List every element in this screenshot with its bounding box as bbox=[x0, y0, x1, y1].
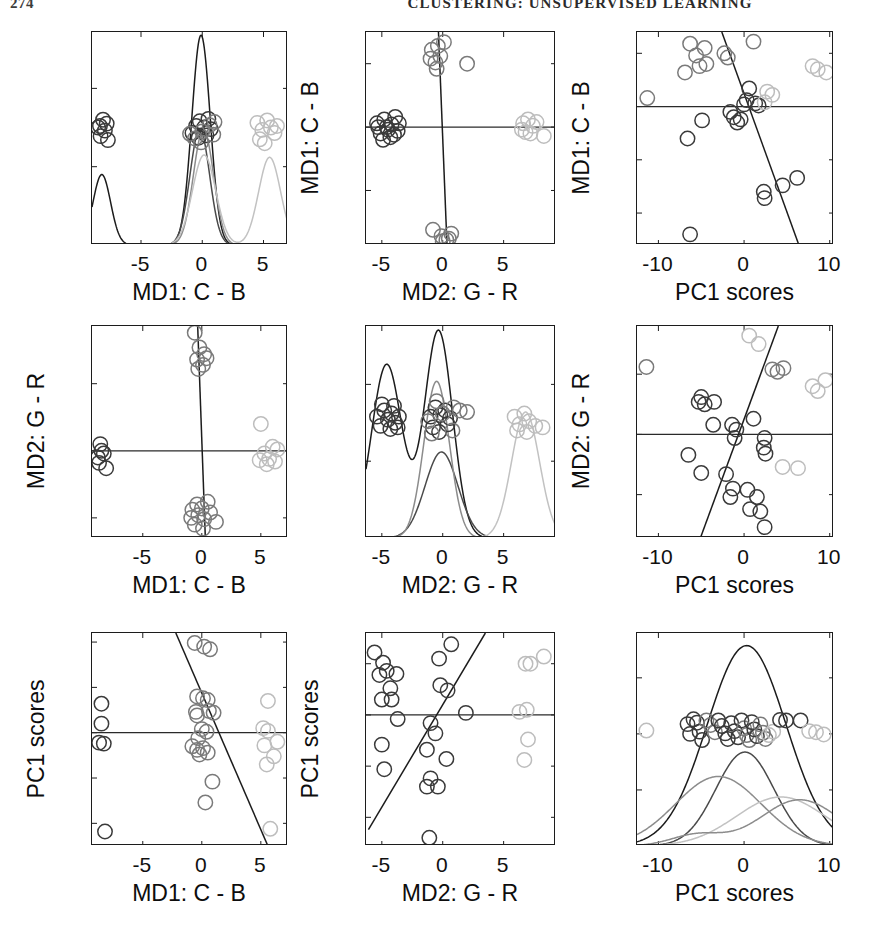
plot-area-3-3[interactable] bbox=[636, 632, 833, 845]
x-tick-label: 0 bbox=[436, 546, 448, 567]
x-tick-label: 0 bbox=[195, 854, 207, 875]
x-tick-label: -10 bbox=[642, 546, 672, 567]
x-tick-label: -5 bbox=[371, 253, 390, 274]
x-tick-label: 10 bbox=[817, 546, 840, 567]
plot-area-1-3[interactable] bbox=[636, 31, 833, 244]
x-tick-label: 5 bbox=[497, 854, 509, 875]
x-tick-label: 5 bbox=[257, 253, 269, 274]
x-tick-label: -5 bbox=[132, 546, 151, 567]
y-axis-title: MD2: G - R bbox=[25, 373, 48, 489]
x-axis-title: MD1: C - B bbox=[132, 281, 246, 304]
x-tick-label: -10 bbox=[642, 253, 672, 274]
x-tick-label: 5 bbox=[254, 546, 266, 567]
x-tick-label: -10 bbox=[642, 854, 672, 875]
x-axis-title: PC1 scores bbox=[675, 574, 794, 597]
x-axis-title: PC1 scores bbox=[675, 281, 794, 304]
x-axis-title: PC1 scores bbox=[675, 882, 794, 905]
plot-area-1-1[interactable] bbox=[91, 31, 287, 244]
y-axis-title: MD2: G - R bbox=[570, 373, 593, 489]
scatterplot-matrix-figure: -50500.10.2MD1: C - B-505-505MD2: G - RM… bbox=[0, 0, 869, 932]
x-tick-label: 0 bbox=[737, 253, 749, 274]
x-axis-title: MD1: C - B bbox=[132, 882, 246, 905]
plot-area-2-2[interactable] bbox=[365, 325, 555, 537]
x-tick-label: 0 bbox=[737, 546, 749, 567]
y-axis-title: PC1 scores bbox=[25, 679, 48, 798]
y-axis-title: MD1: C - B bbox=[299, 81, 322, 195]
x-axis-title: MD2: G - R bbox=[402, 281, 518, 304]
x-tick-label: 5 bbox=[497, 546, 509, 567]
x-tick-label: -5 bbox=[131, 253, 150, 274]
x-tick-label: 5 bbox=[254, 854, 266, 875]
x-tick-label: -5 bbox=[371, 854, 390, 875]
y-axis-title: PC1 scores bbox=[299, 679, 322, 798]
x-tick-label: 0 bbox=[737, 854, 749, 875]
plot-area-1-2[interactable] bbox=[365, 31, 555, 244]
x-axis-title: MD1: C - B bbox=[132, 574, 246, 597]
x-axis-title: MD2: G - R bbox=[402, 882, 518, 905]
y-axis-title: MD1: C - B bbox=[570, 81, 593, 195]
plot-area-3-1[interactable] bbox=[91, 632, 287, 845]
plot-area-2-1[interactable] bbox=[91, 325, 287, 537]
x-tick-label: 0 bbox=[436, 854, 448, 875]
x-tick-label: 5 bbox=[497, 253, 509, 274]
x-tick-label: 0 bbox=[436, 253, 448, 274]
x-tick-label: 10 bbox=[817, 253, 840, 274]
x-tick-label: 0 bbox=[195, 253, 207, 274]
x-axis-title: MD2: G - R bbox=[402, 574, 518, 597]
plot-area-3-2[interactable] bbox=[365, 632, 555, 845]
x-tick-label: -5 bbox=[371, 546, 390, 567]
x-tick-label: 0 bbox=[195, 546, 207, 567]
x-tick-label: 10 bbox=[817, 854, 840, 875]
x-tick-label: -5 bbox=[132, 854, 151, 875]
plot-area-2-3[interactable] bbox=[636, 325, 833, 537]
